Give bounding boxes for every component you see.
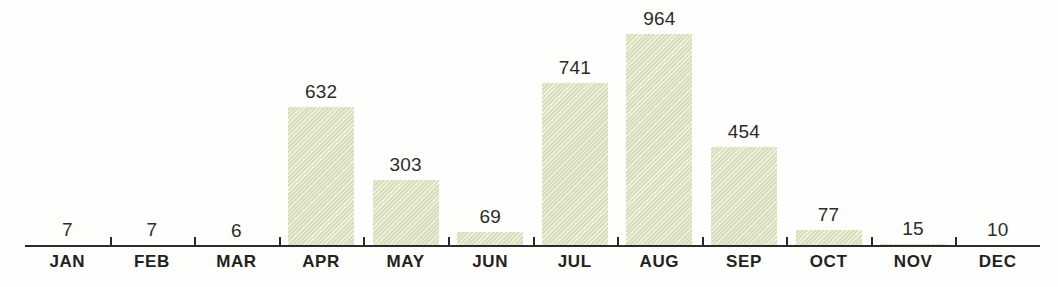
category-label-may: MAY (387, 252, 425, 272)
axis-tick-2 (194, 237, 196, 246)
bar-value-feb: 7 (146, 219, 157, 241)
axis-tick-1 (110, 237, 112, 246)
bar-slot-oct: 77 (786, 0, 871, 247)
bar-chart: 77663230369741964454771510 JANFEBMARAPRM… (0, 0, 1058, 287)
x-axis-category-labels: JANFEBMARAPRMAYJUNJULAUGSEPOCTNOVDEC (25, 252, 1040, 280)
category-label-apr: APR (302, 252, 340, 272)
category-label-sep: SEP (726, 252, 762, 272)
axis-tick-8 (702, 237, 704, 246)
bar-slot-apr: 632 (279, 0, 364, 247)
bar-sep[interactable] (711, 147, 777, 247)
category-label-jan: JAN (49, 252, 85, 272)
bar-value-nov: 15 (902, 218, 924, 240)
axis-tick-11 (955, 237, 957, 246)
bar-value-oct: 77 (818, 204, 840, 226)
bar-aug[interactable] (626, 34, 692, 247)
bar-value-sep: 454 (728, 121, 760, 143)
bar-slot-nov: 15 (871, 0, 956, 247)
bar-jul[interactable] (542, 83, 608, 247)
axis-tick-6 (533, 237, 535, 246)
bar-value-jul: 741 (559, 57, 591, 79)
axis-tick-7 (617, 237, 619, 246)
bar-slot-sep: 454 (702, 0, 787, 247)
bar-value-may: 303 (389, 154, 421, 176)
category-label-feb: FEB (134, 252, 170, 272)
bar-slot-may: 303 (363, 0, 448, 247)
bar-value-aug: 964 (643, 8, 675, 30)
axis-tick-4 (363, 237, 365, 246)
bar-value-dec: 10 (987, 219, 1009, 241)
category-label-jun: JUN (472, 252, 508, 272)
bar-slot-jun: 69 (448, 0, 533, 247)
bar-apr[interactable] (288, 107, 354, 247)
bar-slot-mar: 6 (194, 0, 279, 247)
axis-tick-3 (279, 237, 281, 246)
bar-slot-aug: 964 (617, 0, 702, 247)
category-label-mar: MAR (216, 252, 257, 272)
category-label-nov: NOV (894, 252, 933, 272)
plot-area: 77663230369741964454771510 (25, 0, 1040, 247)
category-label-aug: AUG (640, 252, 680, 272)
bar-slot-jul: 741 (533, 0, 618, 247)
bar-value-apr: 632 (305, 81, 337, 103)
category-label-oct: OCT (810, 252, 848, 272)
category-label-jul: JUL (558, 252, 592, 272)
bar-value-jun: 69 (479, 206, 501, 228)
bar-value-jan: 7 (62, 219, 73, 241)
bar-may[interactable] (373, 180, 439, 247)
axis-tick-10 (871, 237, 873, 246)
bar-value-mar: 6 (231, 220, 242, 242)
category-label-dec: DEC (979, 252, 1017, 272)
axis-tick-5 (448, 237, 450, 246)
bar-slot-dec: 10 (955, 0, 1040, 247)
axis-tick-9 (786, 237, 788, 246)
bar-slot-feb: 7 (110, 0, 195, 247)
bar-slot-jan: 7 (25, 0, 110, 247)
